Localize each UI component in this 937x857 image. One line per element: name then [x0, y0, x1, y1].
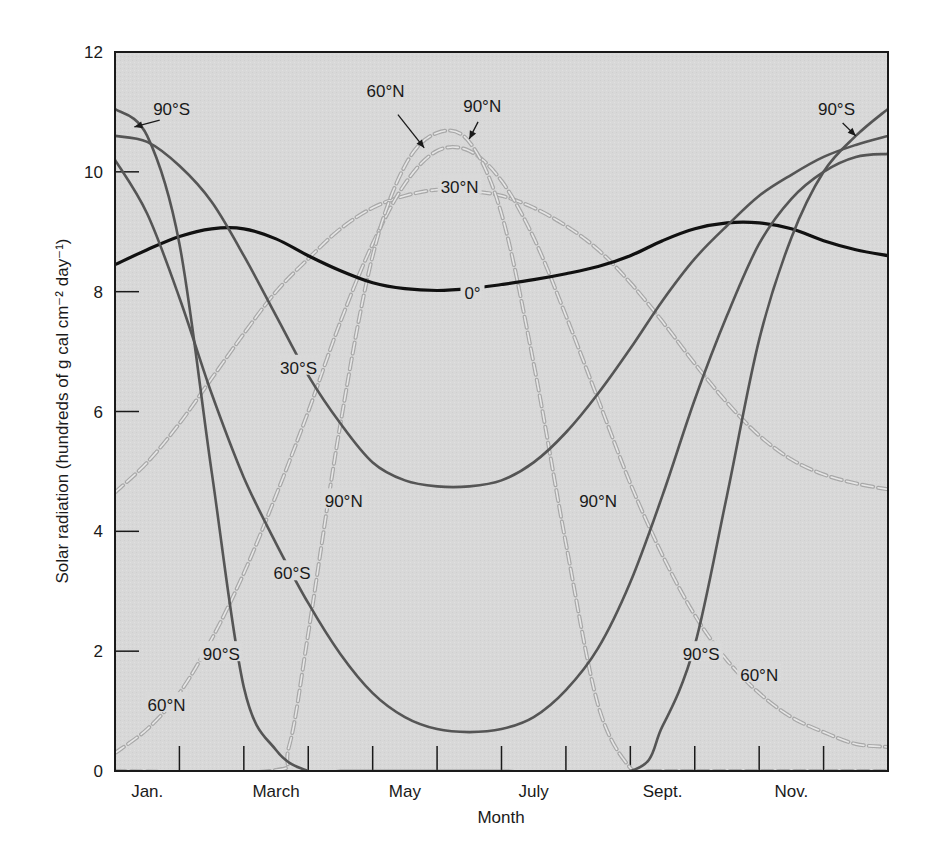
x-tick-label: Jan. [131, 782, 163, 801]
x-tick-label: Sept. [643, 782, 683, 801]
curve-label: 60°N [367, 82, 405, 101]
y-tick-label: 2 [94, 642, 103, 661]
y-tick-label: 10 [84, 163, 103, 182]
curve-label: 90°N [579, 492, 617, 511]
curve-label: 90°S [203, 645, 240, 664]
x-tick-label: March [252, 782, 299, 801]
curve-label: 60°S [274, 564, 311, 583]
x-tick-label: Nov. [775, 782, 809, 801]
curve-label: 90°S [683, 645, 720, 664]
curve-label: 30°N [441, 178, 479, 197]
y-tick-label: 6 [94, 403, 103, 422]
curve-label: 90°N [463, 97, 501, 116]
curve-label: 90°N [325, 492, 363, 511]
y-tick-label: 12 [84, 43, 103, 62]
curve-label: 90°S [153, 100, 190, 119]
y-axis-title: Solar radiation (hundreds of g cal cm⁻² … [53, 239, 72, 584]
y-tick-label: 0 [94, 762, 103, 781]
curve-label: 60°N [740, 666, 778, 685]
solar-radiation-chart: 024681012 Jan.MarchMayJulySept.Nov. 90°S… [0, 0, 937, 857]
curve-label: 30°S [280, 359, 317, 378]
y-tick-label: 4 [94, 522, 103, 541]
y-tick-label: 8 [94, 283, 103, 302]
x-tick-label: May [389, 782, 422, 801]
x-axis-title: Month [477, 808, 524, 827]
x-tick-label: July [519, 782, 550, 801]
curve-label: 90°S [818, 100, 855, 119]
curve-label: 60°N [148, 696, 186, 715]
curve-label: 0° [464, 284, 480, 303]
